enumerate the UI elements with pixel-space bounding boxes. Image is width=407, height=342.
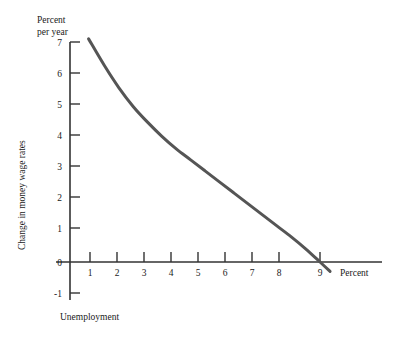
y-axis-title: Change in money wage rates: [17, 140, 27, 250]
x-tick-label-3: 3: [142, 268, 147, 278]
y-tick-label-4: 4: [57, 131, 62, 141]
chart-canvas: Percent per year 7 6 5 4 3 2 1 0 -1: [0, 0, 407, 342]
x-tick-label-9: 9: [318, 268, 323, 278]
y-tick-label-6: 6: [57, 69, 62, 79]
x-unit-label: Percent: [340, 268, 369, 278]
x-tick-label-6: 6: [223, 268, 228, 278]
x-axis-title: Unemployment: [60, 312, 119, 322]
y-tick-label-0: 0: [57, 258, 62, 268]
y-tick-label-5: 5: [57, 100, 62, 110]
x-tick-label-7: 7: [250, 268, 255, 278]
phillips-curve-line: [89, 39, 331, 272]
y-tick-label-neg1: -1: [54, 289, 62, 299]
y-tick-label-1: 1: [57, 224, 62, 234]
x-tick-label-2: 2: [115, 268, 120, 278]
y-tick-label-3: 3: [57, 162, 62, 172]
y-tick-label-2: 2: [57, 193, 62, 203]
x-tick-label-4: 4: [169, 268, 174, 278]
y-axis-ticks: [70, 42, 80, 293]
x-axis-ticks: [90, 252, 320, 262]
x-tick-label-8: 8: [277, 268, 282, 278]
y-tick-label-7: 7: [57, 38, 62, 48]
y-unit-label-line2: per year: [37, 27, 69, 37]
y-unit-label-line1: Percent: [37, 15, 66, 25]
phillips-curve-chart: Percent per year 7 6 5 4 3 2 1 0 -1: [0, 0, 407, 342]
x-tick-label-5: 5: [196, 268, 201, 278]
x-tick-label-1: 1: [88, 268, 93, 278]
